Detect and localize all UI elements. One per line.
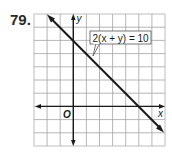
equation-label: 2(x + y) = 10 [93, 33, 150, 44]
x-axis-label: x [157, 108, 164, 119]
y-axis-label: y [76, 13, 83, 24]
coordinate-graph: 2(x + y) = 10 y x O [0, 0, 172, 157]
origin-label: O [63, 109, 71, 120]
